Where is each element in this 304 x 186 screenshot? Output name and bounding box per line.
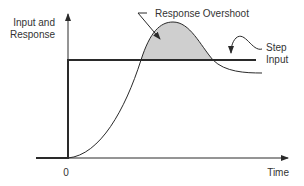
step-input-label-line1: Step — [266, 42, 287, 53]
step-input-line — [36, 60, 256, 158]
overshoot-shaded-area — [68, 22, 213, 158]
origin-label: 0 — [63, 167, 69, 178]
step-input-label-line2: Input — [266, 54, 288, 65]
y-axis-label-line2: Response — [10, 29, 55, 40]
x-axis-label: Time — [267, 167, 289, 178]
y-axis-label-line1: Input and — [13, 17, 55, 28]
overshoot-label: Response Overshoot — [155, 8, 249, 19]
step-response-diagram: Input and Response Response Overshoot St… — [0, 0, 304, 186]
step-input-leader-arrow — [231, 36, 262, 53]
